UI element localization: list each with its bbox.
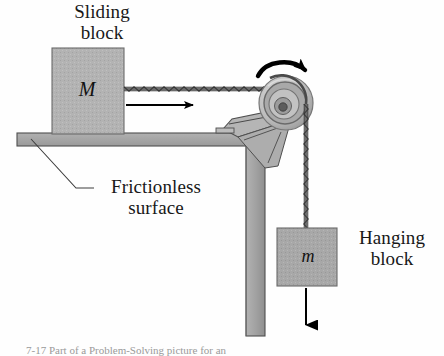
- hanging-block-group: [277, 228, 337, 286]
- bracket-tab: [216, 128, 234, 133]
- frictionless-surface-label: Frictionless surface: [82, 177, 230, 218]
- hanging-block-body: [277, 228, 337, 286]
- sliding-block-body: [52, 48, 124, 134]
- sliding-block-label: Sliding block: [38, 2, 166, 43]
- figure-caption: 7-17 Part of a Problem-Solving picture f…: [26, 344, 436, 356]
- pulley-hub: [279, 103, 287, 111]
- physics-diagram-figure: Sliding block Frictionless surface Hangi…: [0, 0, 444, 356]
- hanging-block-label: Hanging block: [340, 228, 444, 269]
- sliding-block-group: [52, 48, 124, 134]
- table-structure: [17, 133, 270, 336]
- rotation-arrow-clockwise: [258, 62, 305, 76]
- table-top-surface: [17, 133, 270, 146]
- horizontal-rope: [124, 87, 270, 91]
